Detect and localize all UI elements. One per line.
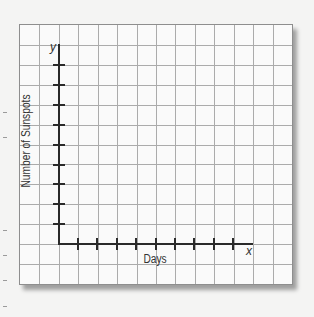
grid-line-horizontal	[20, 45, 292, 46]
x-tick	[174, 238, 176, 250]
y-axis-title: Number of Sunspots	[19, 94, 33, 188]
margin-dash	[3, 112, 7, 113]
x-axis-variable: x	[246, 244, 252, 258]
margin-dash	[3, 137, 7, 138]
x-axis-title: Days	[141, 252, 170, 266]
y-tick	[53, 164, 65, 166]
y-tick	[53, 64, 65, 66]
x-tick	[77, 238, 79, 250]
x-tick	[213, 238, 215, 250]
x-tick	[193, 238, 195, 250]
x-tick	[155, 238, 157, 250]
y-tick	[53, 183, 65, 185]
x-tick	[232, 238, 234, 250]
margin-dash	[3, 230, 7, 231]
y-tick	[53, 104, 65, 106]
y-tick	[53, 84, 65, 86]
margin-dash	[3, 280, 7, 281]
y-tick	[53, 223, 65, 225]
x-tick	[116, 238, 118, 250]
grid-line-vertical	[253, 25, 254, 284]
margin-dash	[3, 306, 7, 307]
x-tick	[135, 238, 137, 250]
y-axis-variable: y	[50, 40, 56, 54]
y-tick	[53, 124, 65, 126]
grid-line-vertical	[39, 25, 40, 284]
grid-line-vertical	[273, 25, 274, 284]
x-tick	[96, 238, 98, 250]
y-tick	[53, 144, 65, 146]
margin-dash	[3, 255, 7, 256]
y-tick	[53, 203, 65, 205]
